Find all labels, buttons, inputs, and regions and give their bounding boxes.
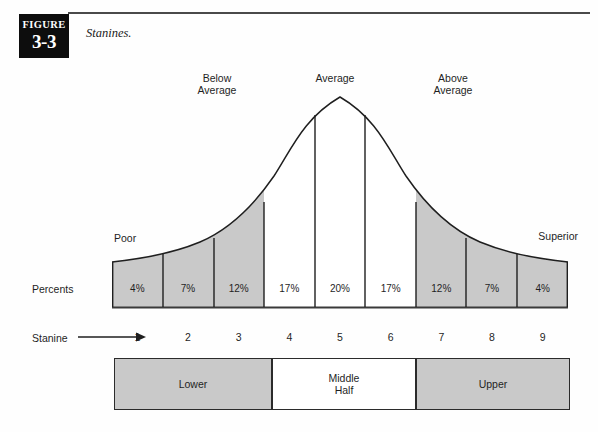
half-band-label: Upper — [479, 378, 508, 390]
half-band-label: Lower — [179, 378, 208, 390]
label-average: Average — [300, 72, 370, 84]
percent-cell: 4% — [517, 270, 568, 307]
percent-cell: 17% — [365, 270, 416, 307]
half-band-upper: Upper — [416, 358, 570, 410]
label-below-average: Below Average — [182, 72, 252, 96]
percent-cell: 12% — [416, 270, 467, 307]
half-band-lower: Lower — [114, 358, 272, 410]
half-band-middle-half: Middle Half — [272, 358, 416, 410]
stanine-number: 9 — [517, 330, 568, 344]
row-label-stanine: Stanine — [32, 332, 68, 344]
label-above-average: Above Average — [418, 72, 488, 96]
stanine-number: 5 — [315, 330, 366, 344]
percent-cell: 7% — [467, 270, 518, 307]
stanine-number: 6 — [365, 330, 416, 344]
stanine-number: 2 — [163, 330, 214, 344]
stanine-number: 8 — [467, 330, 518, 344]
percent-cell: 12% — [213, 270, 264, 307]
stanine-number: 7 — [416, 330, 467, 344]
stanine-number: 1 — [112, 330, 163, 344]
stanine-number: 4 — [264, 330, 315, 344]
percent-cell: 17% — [264, 270, 315, 307]
percent-cell: 7% — [163, 270, 214, 307]
percent-cell: 20% — [315, 270, 366, 307]
half-band-label: Middle Half — [329, 372, 360, 396]
figure-page: FIGURE 3-3 Stanines. — [0, 0, 598, 432]
percent-cell: 4% — [112, 270, 163, 307]
label-poor: Poor — [114, 232, 174, 244]
row-label-percents: Percents — [32, 283, 73, 295]
stanine-number: 3 — [213, 330, 264, 344]
label-superior: Superior — [508, 230, 578, 242]
